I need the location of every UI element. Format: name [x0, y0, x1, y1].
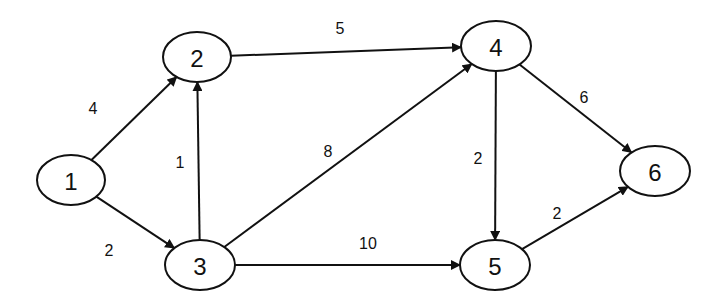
edge-weight-1-3: 2: [105, 242, 114, 259]
edge-3-to-4: [224, 64, 471, 247]
node-label: 1: [64, 168, 77, 195]
node-label: 3: [193, 253, 206, 280]
edge-weight-4-6: 6: [580, 89, 589, 106]
edge-3-to-2: [197, 82, 199, 240]
edges-layer: [91, 47, 631, 265]
edge-2-to-4: [231, 47, 461, 55]
node-3: 3: [165, 240, 235, 290]
node-4: 4: [461, 21, 531, 71]
edge-weight-2-4: 5: [336, 20, 345, 37]
edge-1-to-2: [91, 77, 176, 160]
edge-4-to-6: [520, 65, 632, 153]
edge-weight-3-5: 10: [359, 235, 377, 252]
node-6: 6: [620, 146, 690, 196]
edge-weight-3-2: 1: [176, 154, 185, 171]
edge-weight-1-2: 4: [89, 100, 98, 117]
edge-weight-4-5: 2: [474, 150, 483, 167]
edge-4-to-5: [495, 71, 496, 240]
node-5: 5: [460, 240, 530, 290]
edge-weight-5-6: 2: [553, 205, 562, 222]
node-label: 5: [488, 253, 501, 280]
edge-weight-3-4: 8: [324, 143, 333, 160]
edge-5-to-6: [522, 187, 628, 249]
node-2: 2: [163, 32, 231, 82]
graph-diagram: 123456 4215810262: [0, 0, 722, 306]
edge-1-to-3: [96, 197, 174, 248]
node-label: 6: [648, 159, 661, 186]
node-label: 4: [489, 34, 502, 61]
node-label: 2: [190, 45, 203, 72]
node-1: 1: [37, 155, 105, 205]
